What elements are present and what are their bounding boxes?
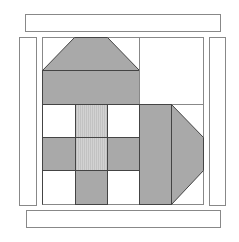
- cell-light-top: [76, 105, 108, 138]
- cell-dark-right: [108, 138, 140, 171]
- cell-dark-left: [43, 138, 76, 171]
- quilt-diagram: [0, 0, 239, 242]
- bottom-border-strip: [27, 211, 221, 228]
- house-body-piece: [43, 71, 140, 105]
- cell-light-center: [76, 138, 108, 171]
- top-border-strip: [26, 15, 221, 32]
- left-border-strip: [20, 38, 37, 206]
- right-border-strip: [210, 38, 226, 206]
- cell-dark-bottom: [76, 171, 108, 205]
- vertical-bar-piece: [140, 105, 172, 205]
